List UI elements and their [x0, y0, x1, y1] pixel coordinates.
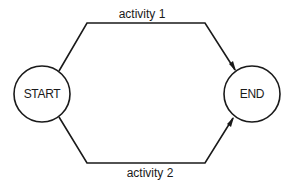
node-start: START: [14, 66, 70, 122]
edge-activity-2: activity 2: [59, 117, 234, 180]
edge-activity-2-label: activity 2: [127, 166, 174, 180]
node-end-label: END: [240, 87, 265, 101]
node-start-label: START: [24, 87, 62, 101]
edge-activity-1: activity 1: [59, 7, 236, 71]
activity-diagram: activity 1 activity 2 START END: [0, 0, 292, 186]
edge-activity-1-line: [59, 23, 235, 71]
edge-activity-1-label: activity 1: [119, 7, 166, 21]
edge-activity-2-line: [59, 117, 233, 163]
node-end: END: [224, 66, 280, 122]
